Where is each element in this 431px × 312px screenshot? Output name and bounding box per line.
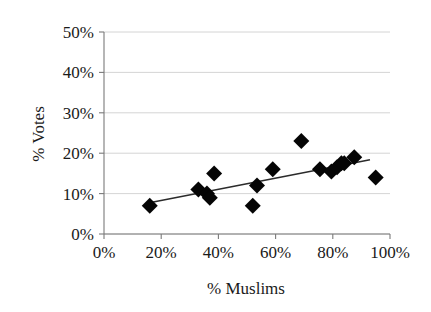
ytick-label-50: 50% <box>63 23 94 42</box>
y-axis-title: % Votes <box>29 106 48 162</box>
ticks-group <box>99 32 390 239</box>
scatter-chart: 0%10%20%30%40%50% 0%20%40%60%80%100% % M… <box>0 0 431 312</box>
ytick-labels-group: 0%10%20%30%40%50% <box>63 23 94 244</box>
xtick-label-20: 20% <box>146 243 177 262</box>
ytick-label-30: 30% <box>63 104 94 123</box>
ytick-label-20: 20% <box>63 144 94 163</box>
data-point-5 <box>245 198 261 214</box>
xtick-label-60: 60% <box>260 243 291 262</box>
data-point-8 <box>293 133 309 149</box>
ytick-label-40: 40% <box>63 63 94 82</box>
xtick-label-40: 40% <box>203 243 234 262</box>
xtick-label-80: 80% <box>317 243 348 262</box>
x-axis-title: % Muslims <box>207 279 285 298</box>
data-point-4 <box>206 165 222 181</box>
data-point-0 <box>142 198 158 214</box>
xtick-label-100: 100% <box>370 243 410 262</box>
xtick-labels-group: 0%20%40%60%80%100% <box>93 243 410 262</box>
ytick-label-0: 0% <box>71 225 94 244</box>
datapoints-group <box>142 133 384 214</box>
xtick-label-0: 0% <box>93 243 116 262</box>
data-point-7 <box>265 161 281 177</box>
data-point-15 <box>368 169 384 185</box>
chart-canvas: 0%10%20%30%40%50% 0%20%40%60%80%100% % M… <box>0 0 431 312</box>
ytick-label-10: 10% <box>63 185 94 204</box>
